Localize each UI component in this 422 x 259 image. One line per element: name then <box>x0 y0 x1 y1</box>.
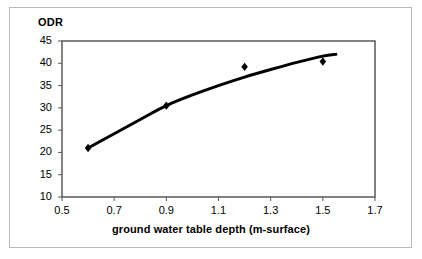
y-axis-tick-label: 45 <box>30 34 52 46</box>
trend-line <box>88 54 336 148</box>
x-axis-title: ground water table depth (m-surface) <box>0 223 422 235</box>
y-axis-tick-label: 35 <box>30 79 52 91</box>
x-axis-tick-label: 1.7 <box>358 204 392 216</box>
chart-plot-canvas <box>0 0 422 259</box>
y-axis-tick-label: 10 <box>30 190 52 202</box>
y-axis-tick-label: 15 <box>30 168 52 180</box>
x-axis-tick-label: 1.5 <box>306 204 340 216</box>
data-point-marker <box>320 57 327 65</box>
data-point-marker <box>241 63 248 71</box>
x-axis-tick-label: 0.7 <box>97 204 131 216</box>
chart-title: ODR <box>38 16 63 28</box>
plot-area-border <box>62 41 375 197</box>
y-axis-tick-label: 40 <box>30 56 52 68</box>
x-axis-tick-label: 1.3 <box>254 204 288 216</box>
y-axis-tick-label: 30 <box>30 101 52 113</box>
x-axis-tick-label: 1.1 <box>202 204 236 216</box>
y-axis-tick-label: 25 <box>30 123 52 135</box>
x-axis-tick-label: 0.5 <box>45 204 79 216</box>
x-axis-tick-label: 0.9 <box>149 204 183 216</box>
y-axis-tick-label: 20 <box>30 145 52 157</box>
